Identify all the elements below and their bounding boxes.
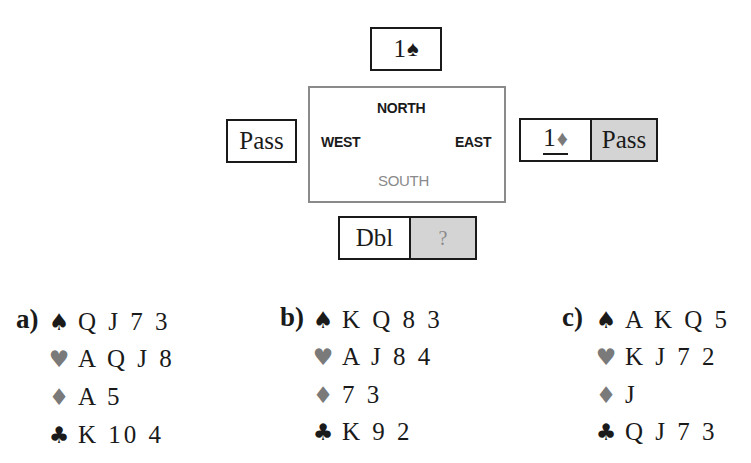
cards-diamonds: J [625,381,638,409]
cards-spades: A K Q 5 [625,306,730,334]
diamond-icon: ♦ [593,382,619,408]
east-bid-2: Pass [590,120,656,160]
cards-hearts: K J 7 2 [625,343,718,371]
hand-label: a) [16,304,39,335]
hand-row-clubs: ♣ K 9 2 [310,414,413,450]
south-bid-box: Dbl ? [338,216,477,260]
bridge-table: NORTH WEST EAST SOUTH [308,86,506,203]
diamond-icon: ♦ [557,126,568,151]
south-bid-2: ? [409,218,475,258]
hand-row-clubs: ♣ K 10 4 [46,417,164,453]
cards-diamonds: A 5 [78,383,122,411]
west-bid: Pass [228,121,295,161]
cards-clubs: Q J 7 3 [625,418,718,446]
hand-row-spades: ♠ A K Q 5 [593,302,730,338]
heart-icon: ♥ [46,346,72,372]
spade-icon: ♠ [310,307,336,333]
compass-east: EAST [455,134,491,150]
cards-clubs: K 9 2 [342,418,413,446]
club-icon: ♣ [310,419,336,445]
hand-row-diamonds: ♦ J [593,377,638,413]
cards-clubs: K 10 4 [78,421,164,449]
hand-row-diamonds: ♦ A 5 [46,379,122,415]
north-bid-box: 1♠ [370,27,442,71]
hand-label: b) [280,302,304,333]
compass-west: WEST [321,134,360,150]
cards-spades: Q J 7 3 [78,308,171,336]
diamond-icon: ♦ [310,382,336,408]
heart-icon: ♥ [593,344,619,370]
compass-south: SOUTH [378,172,429,189]
cards-spades: K Q 8 3 [342,306,443,334]
east-bid-box: 1♦ Pass [519,118,658,162]
hand-row-spades: ♠ K Q 8 3 [310,302,443,338]
compass-north: NORTH [377,100,425,116]
hand-row-spades: ♠ Q J 7 3 [46,304,171,340]
hand-row-clubs: ♣ Q J 7 3 [593,414,718,450]
hand-row-hearts: ♥ K J 7 2 [593,339,718,375]
club-icon: ♣ [46,422,72,448]
diamond-icon: ♦ [46,384,72,410]
east-bid-1: 1♦ [521,120,590,160]
hand-label: c) [562,302,583,333]
east-bid-1-level: 1 [543,124,556,151]
heart-icon: ♥ [310,344,336,370]
east-bid-1-inner: 1♦ [543,125,568,155]
cards-diamonds: 7 3 [342,381,382,409]
spade-icon: ♠ [593,307,619,333]
spade-icon: ♠ [407,36,419,62]
hand-row-hearts: ♥ A J 8 4 [310,339,433,375]
club-icon: ♣ [593,419,619,445]
spade-icon: ♠ [46,309,72,335]
cards-hearts: A J 8 4 [342,343,433,371]
question-mark: ? [439,227,448,250]
cards-hearts: A Q J 8 [78,345,175,373]
north-bid-level: 1 [393,35,406,63]
south-bid-1: Dbl [340,218,409,258]
west-bid-box: Pass [226,119,297,163]
north-bid: 1♠ [372,29,440,69]
hand-row-diamonds: ♦ 7 3 [310,377,382,413]
hand-row-hearts: ♥ A Q J 8 [46,341,175,377]
